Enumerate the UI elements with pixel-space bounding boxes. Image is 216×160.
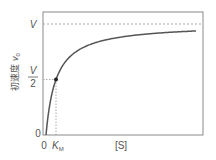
saturation-curve [46,31,196,135]
y-axis-label: 初速度v0 [9,52,21,91]
x-tick-zero: 0 [41,140,47,151]
km-point-marker [54,78,58,82]
x-axis-label: [S] [115,140,127,151]
x-tick-km: KM [52,140,64,152]
y-tick-half-numerator: V [30,65,38,76]
y-tick-vmax: V [30,19,38,30]
svg-text:初速度v0: 初速度v0 [9,52,21,91]
michaelis-menten-chart: V V 2 0 0 KM [S] 初速度v0 [0,0,216,160]
y-tick-half-denominator: 2 [30,78,36,89]
plot-frame [43,12,203,135]
y-tick-zero: 0 [35,128,41,139]
